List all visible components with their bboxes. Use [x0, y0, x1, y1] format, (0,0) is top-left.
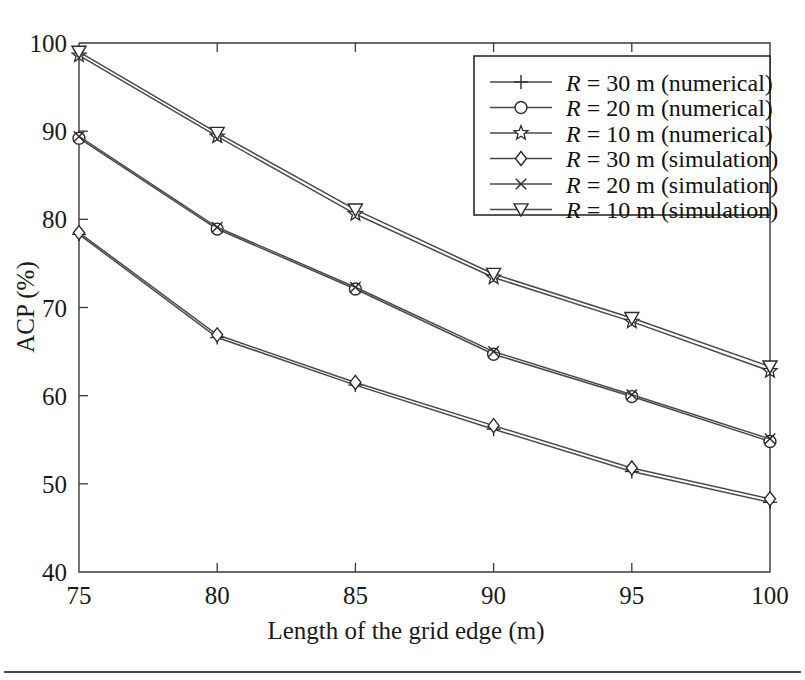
y-axis-ticks: [79, 131, 88, 484]
triangle-down-marker-icon: [348, 204, 362, 216]
series-line: [79, 233, 770, 499]
circle-marker-icon: [515, 102, 527, 114]
x-tick-label: 75: [67, 582, 92, 609]
line-chart: 405060708090100 7580859095100 ACP (%) Le…: [0, 0, 805, 680]
x-axis-title: Length of the grid edge (m): [268, 617, 545, 645]
legend-label: R = 30 m (numerical): [565, 70, 773, 96]
triangle-down-marker-icon: [763, 361, 777, 373]
y-tick-label: 40: [42, 559, 67, 586]
x-tick-labels: 7580859095100: [67, 582, 789, 609]
legend-label: R = 20 m (simulation): [565, 172, 778, 198]
legend-label: R = 10 m (simulation): [565, 197, 778, 223]
legend: R = 30 m (numerical)R = 20 m (numerical)…: [474, 56, 778, 223]
y-tick-label: 90: [42, 118, 67, 145]
y-tick-label: 100: [30, 30, 68, 57]
figure-container: 405060708090100 7580859095100 ACP (%) Le…: [0, 0, 805, 680]
x-tick-label: 80: [205, 582, 230, 609]
y-tick-label: 70: [42, 295, 67, 322]
x-tick-label: 100: [751, 582, 789, 609]
series-diamond: [74, 226, 776, 506]
y-tick-label: 50: [42, 471, 67, 498]
x-tick-label: 90: [481, 582, 506, 609]
y-axis-title: ACP (%): [12, 261, 40, 352]
legend-label: R = 30 m (simulation): [565, 146, 778, 172]
x-tick-label: 85: [343, 582, 368, 609]
series-plus: [72, 227, 777, 509]
legend-label: R = 10 m (numerical): [565, 121, 773, 147]
diamond-marker-icon: [212, 328, 223, 342]
diamond-marker-icon: [350, 375, 361, 389]
x-tick-label: 95: [619, 582, 644, 609]
diamond-marker-icon: [765, 492, 776, 506]
circle-marker-icon: [73, 132, 85, 144]
y-tick-label: 60: [42, 383, 67, 410]
y-tick-label: 80: [42, 206, 67, 233]
legend-label: R = 20 m (numerical): [565, 95, 773, 121]
series-line: [79, 234, 770, 502]
